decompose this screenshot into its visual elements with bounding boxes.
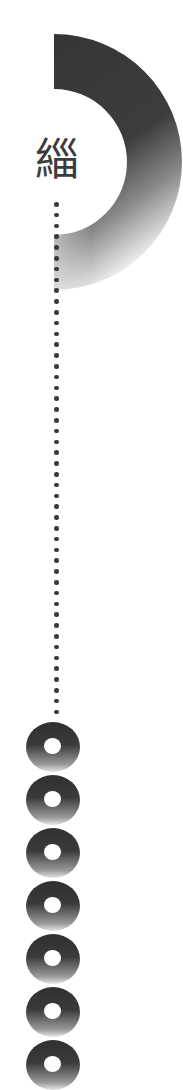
dot: [54, 353, 59, 358]
half-ring-graphic: [0, 0, 183, 300]
dot: [54, 666, 59, 671]
dot: [54, 515, 59, 520]
dot: [54, 537, 59, 542]
dot: [54, 504, 59, 509]
disc-icon: [26, 881, 80, 931]
dot: [54, 591, 59, 596]
dot: [54, 526, 59, 531]
dot: [54, 407, 59, 412]
dot: [54, 267, 59, 272]
dot: [54, 332, 59, 337]
dot: [54, 396, 59, 401]
dot: [54, 288, 59, 293]
dot: [54, 710, 59, 715]
dot: [54, 569, 59, 574]
dot: [54, 699, 59, 704]
dot: [54, 677, 59, 682]
dot: [54, 634, 59, 639]
dot: [54, 472, 59, 477]
dot: [54, 461, 59, 466]
dot: [54, 310, 59, 315]
disc-icon: [26, 987, 80, 1037]
dot: [54, 494, 59, 499]
dot: [54, 612, 59, 617]
dot: [54, 321, 59, 326]
dot: [54, 440, 59, 445]
dot: [54, 202, 59, 207]
dot: [54, 342, 59, 347]
disc-icon: [26, 828, 80, 878]
dot: [54, 558, 59, 563]
dot: [54, 224, 59, 229]
dot: [54, 245, 59, 250]
dot: [54, 580, 59, 585]
disc-icon: [26, 722, 80, 772]
dot: [54, 278, 59, 283]
dot: [54, 375, 59, 380]
disc-icon: [26, 934, 80, 984]
dot: [54, 623, 59, 628]
dot: [54, 256, 59, 261]
dot: [54, 213, 59, 218]
disc-icon: [26, 775, 80, 825]
dot: [54, 548, 59, 553]
dot: [54, 299, 59, 304]
title-glyph: 緇: [34, 132, 80, 188]
dot: [54, 450, 59, 455]
dot: [54, 602, 59, 607]
dot: [54, 386, 59, 391]
dot: [54, 688, 59, 693]
dot: [54, 656, 59, 661]
dot: [54, 234, 59, 239]
disc-icon: [26, 1040, 80, 1090]
dot: [54, 645, 59, 650]
dot: [54, 483, 59, 488]
dot: [54, 418, 59, 423]
dot: [54, 429, 59, 434]
dot: [54, 364, 59, 369]
